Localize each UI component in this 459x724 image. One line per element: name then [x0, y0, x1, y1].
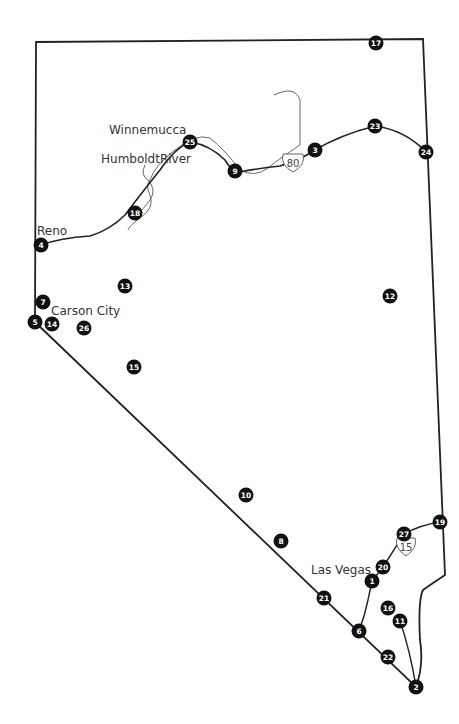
marker-number: 3 — [312, 146, 317, 155]
marker-number: 14 — [47, 320, 57, 329]
marker-23[interactable]: 23 — [368, 119, 383, 134]
place-label-las-vegas: Las Vegas — [311, 563, 371, 577]
marker-15[interactable]: 15 — [127, 360, 142, 375]
marker-number: 19 — [435, 518, 445, 527]
marker-number: 5 — [32, 318, 37, 327]
marker-number: 17 — [371, 39, 381, 48]
marker-number: 25 — [185, 138, 195, 147]
marker-number: 27 — [399, 530, 409, 539]
route-11-to-2[interactable] — [400, 621, 416, 687]
marker-number: 15 — [129, 363, 139, 372]
marker-number: 22 — [383, 653, 393, 662]
place-label-carson-city: Carson City — [51, 304, 120, 318]
state-border — [35, 39, 445, 687]
marker-17[interactable]: 17 — [369, 36, 384, 51]
marker-26[interactable]: 26 — [77, 321, 92, 336]
marker-22[interactable]: 22 — [381, 650, 396, 665]
place-label-reno: Reno — [37, 224, 67, 238]
marker-4[interactable]: 4 — [34, 238, 49, 253]
marker-number: 12 — [385, 292, 395, 301]
marker-18[interactable]: 18 — [128, 206, 143, 221]
place-label-winnemucca: Winnemucca — [109, 123, 186, 137]
marker-number: 13 — [120, 282, 130, 291]
marker-number: 2 — [413, 683, 418, 692]
svg-text:80: 80 — [287, 158, 300, 169]
marker-number: 16 — [383, 604, 393, 613]
marker-13[interactable]: 13 — [118, 279, 133, 294]
marker-21[interactable]: 21 — [317, 591, 332, 606]
marker-9[interactable]: 9 — [228, 164, 243, 179]
svg-text:15: 15 — [400, 542, 413, 553]
interstate-80-route[interactable] — [41, 126, 426, 245]
numbered-markers: 1234567891011121314151617181920212223242… — [28, 36, 448, 695]
marker-number: 8 — [278, 537, 283, 546]
marker-5[interactable]: 5 — [28, 315, 43, 330]
marker-number: 26 — [79, 324, 89, 333]
nevada-map: 80 15 Winnemucca HumboldtRiver Reno Cars… — [0, 0, 459, 724]
marker-10[interactable]: 10 — [239, 488, 254, 503]
marker-number: 24 — [421, 148, 431, 157]
marker-14[interactable]: 14 — [45, 317, 60, 332]
marker-27[interactable]: 27 — [397, 527, 412, 542]
marker-8[interactable]: 8 — [274, 534, 289, 549]
marker-number: 7 — [40, 298, 45, 307]
marker-number: 11 — [395, 617, 405, 626]
marker-number: 23 — [370, 122, 380, 131]
marker-number: 18 — [130, 209, 140, 218]
marker-number: 1 — [369, 577, 374, 586]
i80-shield-icon: 80 — [282, 154, 303, 172]
marker-number: 21 — [319, 594, 329, 603]
humboldt-river-branch — [138, 165, 153, 215]
marker-19[interactable]: 19 — [433, 515, 448, 530]
place-label-humboldt-river: HumboldtRiver — [101, 152, 191, 166]
marker-6[interactable]: 6 — [352, 624, 367, 639]
marker-25[interactable]: 25 — [183, 135, 198, 150]
marker-number: 4 — [38, 241, 43, 250]
marker-16[interactable]: 16 — [381, 601, 396, 616]
marker-number: 20 — [378, 563, 388, 572]
marker-12[interactable]: 12 — [383, 289, 398, 304]
marker-number: 9 — [232, 167, 237, 176]
marker-24[interactable]: 24 — [419, 145, 434, 160]
marker-20[interactable]: 20 — [376, 560, 391, 575]
marker-7[interactable]: 7 — [36, 295, 51, 310]
marker-11[interactable]: 11 — [393, 614, 408, 629]
marker-2[interactable]: 2 — [409, 680, 424, 695]
marker-number: 10 — [241, 491, 251, 500]
marker-1[interactable]: 1 — [365, 574, 380, 589]
marker-3[interactable]: 3 — [308, 143, 323, 158]
marker-number: 6 — [356, 627, 361, 636]
